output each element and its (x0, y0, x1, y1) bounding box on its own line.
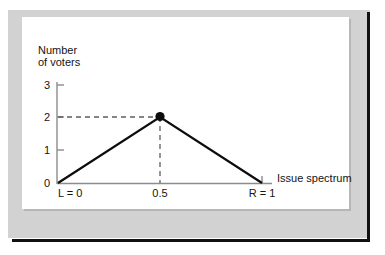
x-tick-label-r1: R = 1 (249, 187, 276, 199)
median-voter-point (155, 112, 164, 121)
y-tick-label-3: 3 (44, 79, 50, 91)
y-tick-label-2: 2 (44, 111, 50, 123)
y-tick-label-0: 0 (44, 177, 50, 189)
x-axis-title: Issue spectrum (277, 172, 352, 184)
y-tick-label-1: 1 (44, 144, 50, 156)
x-tick-label-mid: 0.5 (152, 187, 167, 199)
y-axis-title-line1: Number (38, 44, 77, 56)
voter-distribution-chart: Number of voters 3 2 1 0 L = 0 0.5 R = 1… (0, 0, 385, 255)
y-axis-title-line2: of voters (38, 56, 81, 68)
x-tick-label-l0: L = 0 (58, 187, 82, 199)
